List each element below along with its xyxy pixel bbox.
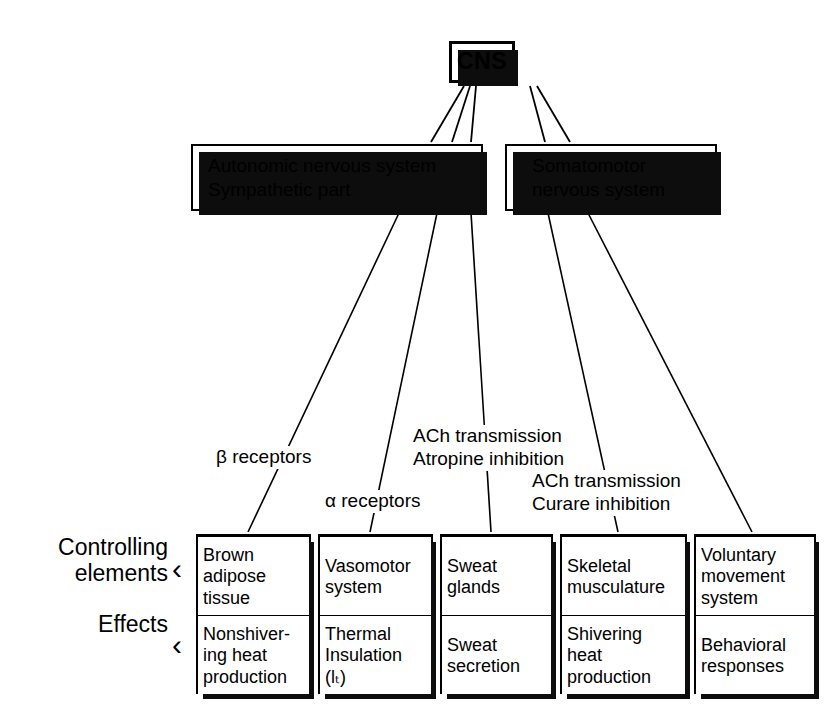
controlling-element-cell: Vasomotor system: [320, 537, 431, 616]
connector-cns-to-ans-3: [471, 86, 476, 142]
somatomotor-nervous-system-box[interactable]: Somatomotor nervous system: [505, 144, 717, 211]
cns-label: CNS: [457, 49, 507, 75]
effector-column-voluntary-movement-system[interactable]: Voluntary movement system Behavioral res…: [694, 534, 816, 694]
connector-ans-to-brown-adipose: [248, 213, 399, 532]
connector-ans-to-vasomotor: [370, 213, 437, 532]
annotation-alpha-receptors: α receptors: [323, 490, 422, 513]
row-label-controlling-elements: Controlling elements: [8, 535, 168, 587]
annotation-ach-curare: ACh transmission Curare inhibition: [530, 470, 683, 516]
effect-cell: Thermal Insulation (lₜ): [320, 616, 431, 694]
diagram-canvas: CNS Autonomic nervous system Sympathetic…: [0, 0, 832, 728]
effector-column-brown-adipose-tissue[interactable]: Brown adipose tissue Nonshiver- ing heat…: [196, 534, 311, 694]
connector-cns-to-ans-2: [452, 86, 470, 142]
effect-cell: Nonshiver- ing heat production: [198, 616, 309, 694]
controlling-element-cell: Skeletal musculature: [562, 537, 685, 616]
controlling-element-cell: Sweat glands: [442, 537, 551, 616]
somatomotor-nervous-system-label: Somatomotor nervous system: [507, 154, 665, 200]
effect-cell: Sweat secretion: [442, 616, 551, 694]
annotation-ach-atropine: ACh transmission Atropine inhibition: [411, 425, 566, 471]
effector-column-sweat-glands[interactable]: Sweat glands Sweat secretion: [440, 534, 553, 694]
connector-cns-to-sms-1: [530, 86, 545, 142]
effector-column-skeletal-musculature[interactable]: Skeletal musculature Shivering heat prod…: [560, 534, 687, 694]
effect-cell: Shivering heat production: [562, 616, 685, 694]
connector-cns-to-ans-1: [431, 86, 464, 142]
cns-box[interactable]: CNS: [449, 41, 515, 83]
controlling-element-cell: Voluntary movement system: [696, 537, 814, 616]
autonomic-nervous-system-label: Autonomic nervous system Sympathetic par…: [193, 154, 436, 200]
effector-column-vasomotor-system[interactable]: Vasomotor system Thermal Insulation (lₜ): [318, 534, 433, 694]
annotation-beta-receptors: β receptors: [214, 446, 313, 469]
bracket-controlling-elements-icon: ‹: [172, 554, 182, 584]
connector-cns-to-sms-2: [537, 86, 570, 142]
row-label-effects: Effects: [8, 612, 168, 638]
controlling-element-cell: Brown adipose tissue: [198, 537, 309, 616]
effect-cell: Behavioral responses: [696, 616, 814, 694]
connector-ans-to-sweat-glands: [471, 213, 491, 532]
bracket-effects-icon: ‹: [172, 630, 182, 660]
autonomic-nervous-system-box[interactable]: Autonomic nervous system Sympathetic par…: [191, 144, 483, 211]
